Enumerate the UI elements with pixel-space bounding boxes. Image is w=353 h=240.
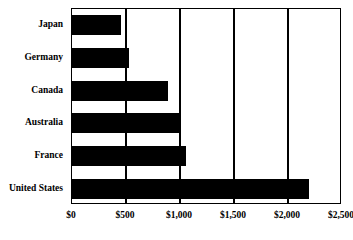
plot-area [72, 9, 340, 203]
plot-frame [71, 8, 341, 204]
category-axis-labels: JapanGermanyCanadaAustraliaFranceUnited … [0, 8, 67, 204]
gridline [179, 9, 181, 203]
gridline [287, 9, 289, 203]
x-tick-label: $500 [116, 210, 135, 220]
x-tick-label: $1,500 [220, 210, 246, 220]
category-label: Japan [38, 19, 63, 29]
category-label: United States [9, 183, 63, 193]
x-tick-label: $2,000 [274, 210, 300, 220]
bar-chart-screenshot: JapanGermanyCanadaAustraliaFranceUnited … [0, 0, 353, 240]
category-label: Australia [25, 117, 63, 127]
bar [72, 81, 168, 101]
category-label: France [35, 150, 64, 160]
bar [72, 15, 121, 35]
x-axis-tick-labels: $0$500$1,000$1,500$2,000$2,500 [0, 206, 353, 226]
bar [72, 179, 309, 199]
x-tick-label: $0 [66, 210, 76, 220]
x-tick-label: $2,500 [328, 210, 353, 220]
x-tick-label: $1,000 [166, 210, 192, 220]
bar [72, 48, 129, 68]
gridline [125, 9, 127, 203]
category-label: Canada [31, 85, 63, 95]
bar [72, 146, 186, 166]
category-label: Germany [24, 52, 63, 62]
bar [72, 113, 181, 133]
gridline [233, 9, 235, 203]
